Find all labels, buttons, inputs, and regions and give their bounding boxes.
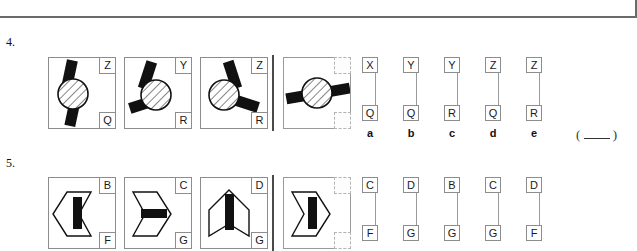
q4-option-b-top-label: Y [403, 57, 419, 73]
q4-answer-blank-close: ) [613, 127, 618, 142]
q4-option-letter-a: a [363, 128, 377, 139]
q5-stimulus-3-bottom-label: G [251, 232, 268, 249]
q5-option-d-top-label: C [485, 177, 501, 193]
q4-option-b-bottom-label: Q [403, 105, 419, 121]
q4-stimulus-1-bottom-label: Q [99, 112, 116, 129]
q4-option-d-top-label: Z [485, 57, 501, 73]
q4-option-letter-d: d [486, 128, 500, 139]
q5-option-e-bottom-label: F [526, 225, 542, 241]
q5-option-a-spine [375, 193, 376, 227]
q4-option-a-bottom-label: Q [362, 105, 378, 121]
q5-option-d-spine [498, 193, 499, 227]
q4-option-letter-e: e [527, 128, 541, 139]
q4-stimulus-2: Y R [124, 57, 192, 129]
q5-option-d-bottom-label: G [485, 225, 501, 241]
q4-option-e-spine [539, 73, 540, 107]
q5-stimulus-1-bottom-label: F [99, 232, 116, 249]
q4-stimulus-1: Z Q [48, 57, 116, 129]
q4-stimulus-3-top-label: Z [251, 57, 268, 74]
q5-option-a-bottom-label: F [362, 225, 378, 241]
q4-query-figure [283, 57, 351, 129]
q5-stimulus-2-bottom-label: G [175, 232, 192, 249]
page-frame-rule [0, 0, 637, 18]
q4-option-c-bottom-label: R [444, 105, 460, 121]
q5-option-c-top-label: B [444, 177, 460, 193]
q4-option-c[interactable]: Y R [444, 57, 462, 123]
q5-stimulus-2: C G [124, 177, 192, 249]
q5-option-e[interactable]: D F [526, 177, 544, 243]
q4-option-e[interactable]: Z R [526, 57, 544, 123]
q4-option-letter-b: b [404, 128, 418, 139]
q4-option-d-spine [498, 73, 499, 107]
q4-option-d[interactable]: Z Q [485, 57, 503, 123]
q5-option-c-spine [457, 193, 458, 227]
q4-option-e-top-label: Z [526, 57, 542, 73]
q5-option-d[interactable]: C G [485, 177, 503, 243]
q4-option-b[interactable]: Y Q [403, 57, 421, 123]
q4-option-a-top-label: X [362, 57, 378, 73]
q5-option-b-spine [416, 193, 417, 227]
q4-stimulus-2-top-label: Y [175, 57, 192, 74]
q5-stimulus-1: B F [48, 177, 116, 249]
q5-option-a-top-label: C [362, 177, 378, 193]
q5-stimulus-3-top-label: D [251, 177, 268, 194]
q4-stimulus-2-bottom-label: R [175, 112, 192, 129]
q4-query-top-label [334, 57, 351, 74]
q5-stimulus-3: D G [200, 177, 268, 249]
q5-option-b[interactable]: D G [403, 177, 421, 243]
q4-option-d-bottom-label: Q [485, 105, 501, 121]
q4-divider [272, 55, 274, 131]
q4-stimulus-3: Z R [200, 57, 268, 129]
q4-stimulus-3-bottom-label: R [251, 112, 268, 129]
q4-option-c-spine [457, 73, 458, 107]
q5-option-c-bottom-label: G [444, 225, 460, 241]
question-number-5: 5. [6, 157, 15, 169]
q5-query-figure [283, 177, 351, 249]
q5-option-b-bottom-label: G [403, 225, 419, 241]
q5-option-a[interactable]: C F [362, 177, 380, 243]
q5-stimulus-2-top-label: C [175, 177, 192, 194]
q4-answer-blank-text: ( [576, 127, 581, 142]
q4-option-e-bottom-label: R [526, 105, 542, 121]
q5-option-e-top-label: D [526, 177, 542, 193]
question-number-4: 4. [6, 36, 15, 48]
q4-stimulus-1-top-label: Z [99, 57, 116, 74]
q5-option-b-top-label: D [403, 177, 419, 193]
q5-divider [272, 175, 274, 251]
q5-option-c[interactable]: B G [444, 177, 462, 243]
q5-option-e-spine [539, 193, 540, 227]
q4-option-c-top-label: Y [444, 57, 460, 73]
q4-query-bottom-label [334, 112, 351, 129]
q5-query-top-label [334, 177, 351, 194]
q4-answer-blank[interactable]: () [576, 127, 618, 143]
q4-option-a[interactable]: X Q [362, 57, 380, 123]
q5-stimulus-1-top-label: B [99, 177, 116, 194]
q4-option-letter-c: c [445, 128, 459, 139]
q4-answer-blank-line [584, 138, 610, 139]
q4-option-b-spine [416, 73, 417, 107]
q5-query-bottom-label [334, 232, 351, 249]
q4-option-a-spine [375, 73, 376, 107]
